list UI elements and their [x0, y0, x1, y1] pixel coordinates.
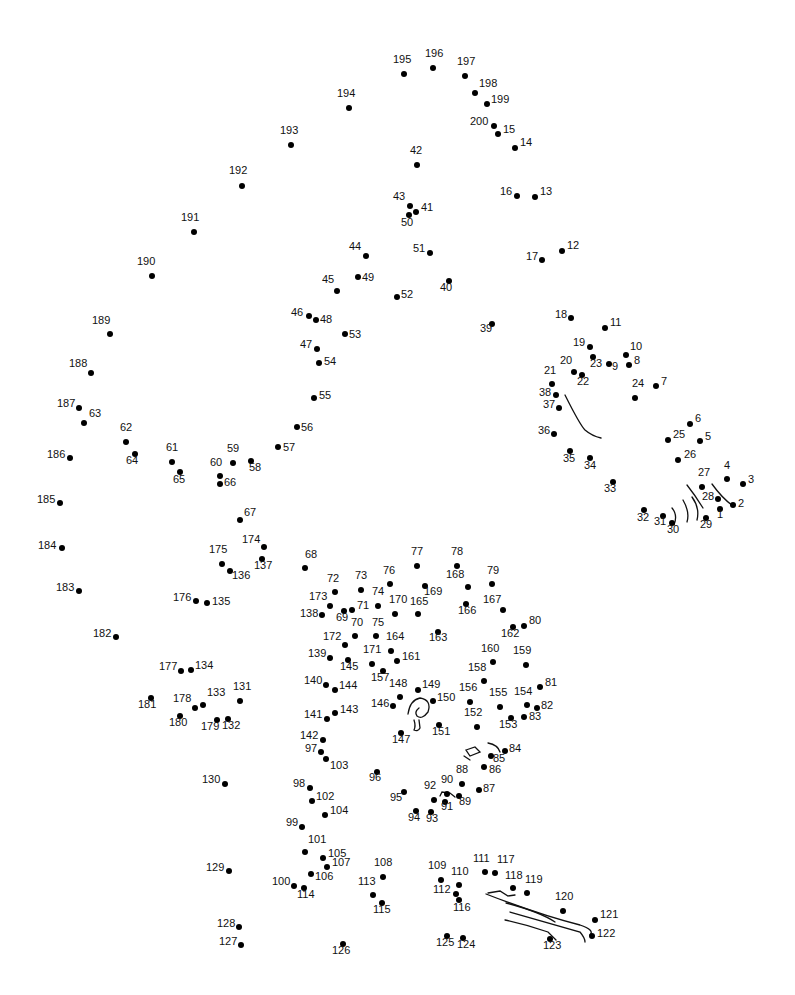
- dot-label: 123: [543, 940, 561, 951]
- dot-117: [492, 870, 498, 876]
- dot-label: 125: [436, 937, 454, 948]
- dot-53: [342, 331, 348, 337]
- dot-label: 35: [563, 453, 575, 464]
- dot-label: 106: [315, 871, 333, 882]
- dot-47: [314, 346, 320, 352]
- dot-label: 56: [301, 422, 313, 433]
- dot-label: 193: [280, 125, 298, 136]
- dot-label: 115: [373, 904, 391, 915]
- dot-2: [730, 502, 736, 508]
- dot-119: [524, 890, 530, 896]
- dot-label: 126: [332, 945, 350, 956]
- dot-label: 148: [389, 678, 407, 689]
- dot-97: [318, 749, 324, 755]
- dot-label: 52: [401, 289, 413, 300]
- dot-60: [217, 473, 223, 479]
- dot-105: [320, 855, 326, 861]
- dot-76: [387, 581, 393, 587]
- dot-label: 180: [169, 717, 187, 728]
- pre-drawn-strokes: [0, 0, 795, 995]
- dot-label: 104: [330, 805, 348, 816]
- dot-92: [431, 797, 437, 803]
- dot-label: 71: [357, 600, 369, 611]
- dot-label: 164: [386, 631, 404, 642]
- dot-5: [697, 438, 703, 444]
- dot-label: 15: [503, 124, 515, 135]
- dot-label: 84: [509, 743, 521, 754]
- dot-188: [88, 370, 94, 376]
- dot-label: 133: [207, 687, 225, 698]
- dot-187: [76, 405, 82, 411]
- dot-197: [462, 73, 468, 79]
- dot-label: 48: [320, 314, 332, 325]
- dot-label: 91: [441, 801, 453, 812]
- dot-59: [230, 460, 236, 466]
- dot-139: [327, 655, 333, 661]
- dot-label: 185: [37, 494, 55, 505]
- dot-177: [178, 668, 184, 674]
- dot-173: [327, 603, 333, 609]
- dot-label: 195: [393, 54, 411, 65]
- dot-200: [491, 123, 497, 129]
- dot-159: [523, 662, 529, 668]
- dot-label: 11: [610, 317, 621, 328]
- dot-63: [81, 420, 87, 426]
- dot-label: 60: [210, 457, 222, 468]
- dot-label: 113: [358, 876, 376, 887]
- dot-184: [59, 545, 65, 551]
- dot-195: [401, 71, 407, 77]
- dot-46: [306, 313, 312, 319]
- dot-label: 57: [283, 442, 295, 453]
- dot-14: [512, 145, 518, 151]
- dot-130: [222, 781, 228, 787]
- dot-16: [514, 193, 520, 199]
- dot-label: 176: [173, 592, 191, 603]
- dot-199: [484, 101, 490, 107]
- dot-label: 118: [505, 870, 523, 881]
- dot-label: 161: [402, 651, 420, 662]
- dot-3: [740, 481, 746, 487]
- dot-label: 93: [426, 813, 438, 824]
- dot-label: 166: [458, 605, 476, 616]
- dot-label: 83: [529, 711, 541, 722]
- dot-label: 62: [120, 422, 132, 433]
- dot-label: 74: [372, 586, 384, 597]
- dot-label: 175: [209, 544, 227, 555]
- dot-label: 143: [340, 704, 358, 715]
- dot-17: [539, 257, 545, 263]
- dot-55: [311, 395, 317, 401]
- dot-99: [299, 824, 305, 830]
- dot-label: 188: [69, 358, 87, 369]
- dot-label: 47: [300, 339, 312, 350]
- dot-label: 145: [340, 661, 358, 672]
- dot-56: [294, 424, 300, 430]
- dot-label: 194: [337, 88, 355, 99]
- dot-label: 80: [529, 615, 541, 626]
- dot-90: [444, 791, 450, 797]
- dot-label: 5: [705, 431, 711, 442]
- dot-label: 88: [456, 764, 468, 775]
- dot-134: [188, 667, 194, 673]
- dot-140: [323, 682, 329, 688]
- dot-label: 128: [217, 918, 235, 929]
- dot-51: [427, 250, 433, 256]
- dot-label: 32: [637, 512, 649, 523]
- dot-label: 134: [195, 660, 213, 671]
- dot-label: 102: [316, 791, 334, 802]
- dot-43: [407, 203, 413, 209]
- dot-label: 16: [500, 186, 512, 197]
- dot-label: 59: [227, 443, 239, 454]
- dot-label: 131: [233, 681, 251, 692]
- dot-131: [237, 698, 243, 704]
- dot-label: 22: [577, 376, 589, 387]
- dot-label: 103: [330, 760, 348, 771]
- dot-88: [459, 781, 465, 787]
- dot-label: 90: [441, 774, 453, 785]
- dot-38: [553, 392, 559, 398]
- dot-4: [724, 476, 730, 482]
- dot-label: 136: [232, 570, 250, 581]
- dot-149: [415, 687, 421, 693]
- dot-146: [390, 703, 396, 709]
- dot-label: 179: [201, 721, 219, 732]
- dot-194: [346, 105, 352, 111]
